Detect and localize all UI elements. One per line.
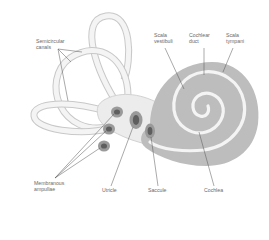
label-scala-tympani: Scala tympani: [226, 32, 244, 44]
label-scala-vestibuli: Scala vestibuli: [154, 32, 173, 44]
label-cochlear-duct: Cochlear duct: [189, 32, 210, 44]
label-utricle: Utricle: [102, 187, 117, 193]
label-cochlea: Cochlea: [204, 187, 223, 193]
saccule: [145, 124, 155, 139]
cochlea: [141, 62, 258, 166]
label-semicircular-canals: Semicircular canals: [36, 38, 65, 50]
utricle: [130, 111, 143, 129]
label-membranous-ampullae: Membranous ampullae: [34, 180, 64, 192]
label-saccule: Saccule: [148, 187, 166, 193]
